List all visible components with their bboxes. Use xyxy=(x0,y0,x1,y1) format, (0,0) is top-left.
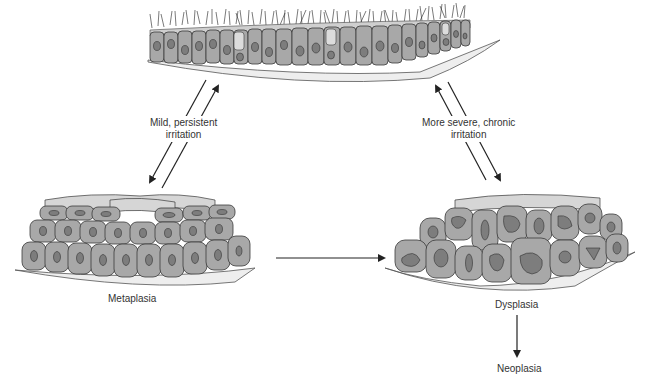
edge-label-mild-line2: irritation xyxy=(150,129,217,141)
metaplasia-illustration xyxy=(15,195,255,285)
normal-epithelium-illustration xyxy=(148,3,500,82)
node-label-neoplasia: Neoplasia xyxy=(497,363,541,375)
dysplasia-illustration xyxy=(385,194,635,290)
node-label-metaplasia: Metaplasia xyxy=(108,293,156,305)
diagram-canvas xyxy=(0,0,646,379)
edge-label-severe: More severe, chronic irritation xyxy=(420,116,517,142)
node-label-dysplasia: Dysplasia xyxy=(495,299,538,311)
edge-label-severe-line1: More severe, chronic xyxy=(422,117,515,129)
edge-label-mild: Mild, persistent irritation xyxy=(148,116,219,142)
edge-label-mild-line1: Mild, persistent xyxy=(150,117,217,129)
edge-label-severe-line2: irritation xyxy=(422,129,515,141)
